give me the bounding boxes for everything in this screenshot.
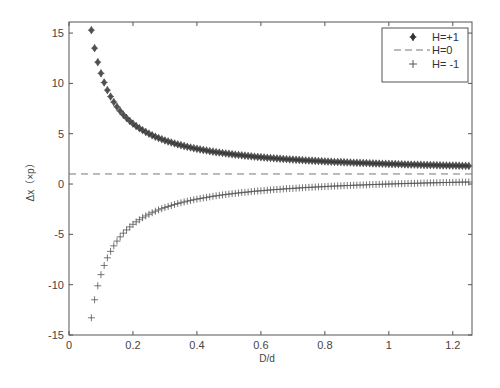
x-tick-label: 0 [66, 339, 72, 351]
y-tick-label: 10 [52, 77, 64, 89]
x-tick-label: 0.8 [317, 339, 332, 351]
y-tick-label: 0 [58, 178, 64, 190]
chart: 00.20.40.60.811.2 -15-10-5051015 D/d Δx（… [0, 0, 500, 388]
legend-label: H=0 [432, 44, 453, 56]
y-tick-label: -15 [48, 329, 64, 341]
y-tick-label: -5 [54, 228, 64, 240]
y-tick-label: 15 [52, 27, 64, 39]
y-tick-label: -10 [48, 279, 64, 291]
x-tick-label: 1 [386, 339, 392, 351]
x-tick-label: 0.4 [189, 339, 204, 351]
y-axis-label: Δx（×p） [25, 158, 36, 201]
x-tick-label: 0.2 [125, 339, 140, 351]
y-tick-label: 5 [58, 128, 64, 140]
legend: H=+1 H=0 H= -1 [382, 28, 468, 82]
x-tick-label: 1.2 [445, 339, 460, 351]
x-axis-label: D/d [259, 353, 275, 364]
x-tick-label: 0.6 [253, 339, 268, 351]
legend-label: H=+1 [432, 31, 459, 43]
legend-label: H= -1 [432, 58, 459, 70]
